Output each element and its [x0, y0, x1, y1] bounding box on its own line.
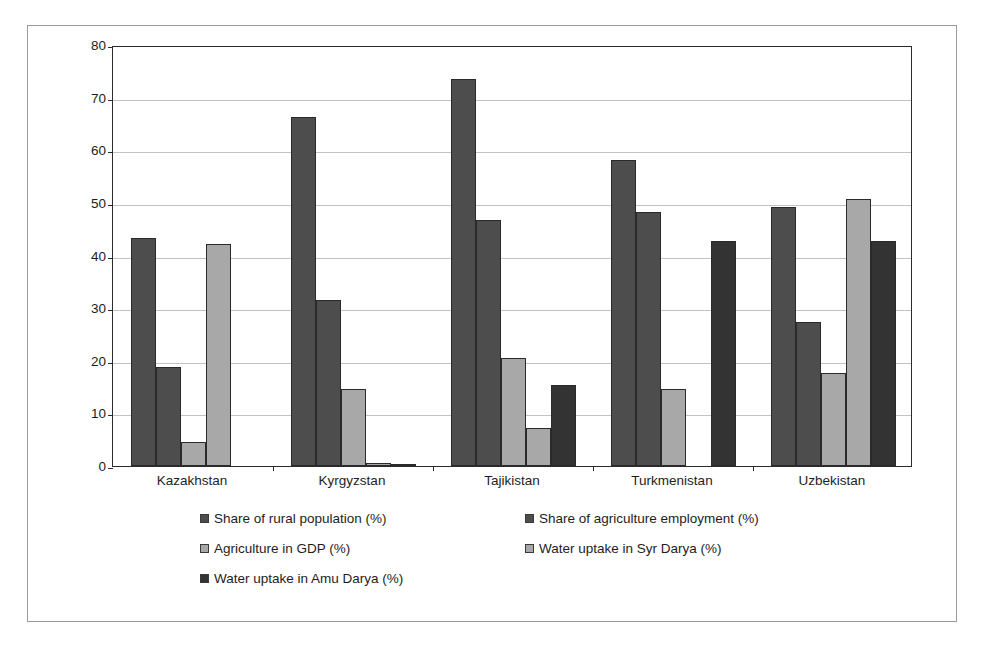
bar: [131, 238, 156, 466]
y-axis-tick-label: 30: [50, 302, 106, 316]
legend-swatch-icon: [200, 514, 209, 523]
bar-group: [273, 47, 433, 466]
legend-item[interactable]: Agriculture in GDP (%): [200, 542, 350, 556]
bar: [156, 367, 181, 466]
y-axis-tick: [108, 468, 113, 469]
bar-group: [593, 47, 753, 466]
x-axis-category-label: Kyrgyzstan: [272, 474, 432, 489]
y-axis-tick-label: 60: [50, 144, 106, 158]
y-axis-tick-label: 20: [50, 355, 106, 369]
x-axis-tick: [753, 466, 754, 471]
x-axis-category-label: Tajikistan: [432, 474, 592, 489]
legend-row: Share of rural population (%)Share of ag…: [200, 512, 900, 542]
bar: [316, 300, 341, 466]
bar: [501, 358, 526, 466]
legend-label: Water uptake in Syr Darya (%): [539, 542, 722, 556]
legend-item[interactable]: Water uptake in Syr Darya (%): [525, 542, 722, 556]
bar: [206, 244, 231, 466]
bar: [391, 464, 416, 466]
legend-item[interactable]: Water uptake in Amu Darya (%): [200, 572, 403, 586]
bar: [636, 212, 661, 466]
y-axis: 01020304050607080: [46, 46, 106, 467]
legend-label: Share of rural population (%): [214, 512, 387, 526]
legend-item[interactable]: Share of agriculture employment (%): [525, 512, 759, 526]
bar: [291, 117, 316, 466]
legend-row: Water uptake in Amu Darya (%): [200, 572, 900, 602]
legend-label: Share of agriculture employment (%): [539, 512, 759, 526]
bar-group: [753, 47, 913, 466]
y-axis-tick-label: 40: [50, 250, 106, 264]
bar: [526, 428, 551, 466]
y-axis-tick-label: 0: [50, 460, 106, 474]
plot-area: [112, 46, 912, 467]
x-axis-category-label: Kazakhstan: [112, 474, 272, 489]
legend-swatch-icon: [525, 544, 534, 553]
bar-group: [433, 47, 593, 466]
legend-label: Agriculture in GDP (%): [214, 542, 350, 556]
y-axis-tick-label: 80: [50, 39, 106, 53]
legend-swatch-icon: [200, 544, 209, 553]
bar: [451, 79, 476, 466]
x-axis-tick: [433, 466, 434, 471]
bar: [366, 463, 391, 466]
x-axis: KazakhstanKyrgyzstanTajikistanTurkmenist…: [112, 474, 912, 496]
bar-group: [113, 47, 273, 466]
legend-row: Agriculture in GDP (%)Water uptake in Sy…: [200, 542, 900, 572]
x-axis-category-label: Uzbekistan: [752, 474, 912, 489]
bar: [181, 442, 206, 466]
bar: [821, 373, 846, 466]
legend-swatch-icon: [525, 514, 534, 523]
bar: [771, 207, 796, 466]
y-axis-tick-label: 70: [50, 92, 106, 106]
bar: [661, 389, 686, 466]
legend-item[interactable]: Share of rural population (%): [200, 512, 387, 526]
bar: [476, 220, 501, 466]
bar: [846, 199, 871, 466]
bar: [551, 385, 576, 466]
bar: [341, 389, 366, 466]
legend-label: Water uptake in Amu Darya (%): [214, 572, 403, 586]
bar: [796, 322, 821, 466]
x-axis-tick: [273, 466, 274, 471]
x-axis-tick: [593, 466, 594, 471]
chart-legend: Share of rural population (%)Share of ag…: [200, 512, 900, 607]
bar: [711, 241, 736, 466]
y-axis-tick-label: 50: [50, 197, 106, 211]
y-axis-tick-label: 10: [50, 407, 106, 421]
chart-figure: 01020304050607080 KazakhstanKyrgyzstanTa…: [0, 0, 985, 652]
bar: [871, 241, 896, 466]
bar: [611, 160, 636, 466]
x-axis-category-label: Turkmenistan: [592, 474, 752, 489]
legend-swatch-icon: [200, 574, 209, 583]
